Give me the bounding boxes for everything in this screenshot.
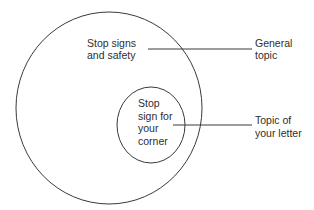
letter-topic-callout: Topic of your letter: [255, 114, 302, 140]
general-topic-callout-line-1: General: [255, 37, 292, 49]
letter-topic-callout-line-1: Topic of: [255, 114, 302, 127]
nested-topic-diagram: Stop signs and safety Stop sign for your…: [0, 0, 314, 210]
outer-circle-label-line-2: and safety: [87, 49, 136, 61]
inner-circle-label-line-3: your: [138, 122, 172, 135]
outer-circle-label: Stop signs and safety: [87, 37, 136, 61]
inner-circle-label-line-4: corner: [138, 135, 172, 148]
general-topic-callout: General topic: [255, 37, 292, 61]
general-topic-callout-line-2: topic: [255, 49, 292, 61]
inner-circle-label-line-1: Stop: [138, 97, 172, 110]
outer-circle-label-line-1: Stop signs: [87, 37, 136, 49]
inner-circle-label-line-2: sign for: [138, 110, 172, 123]
inner-circle-label: Stop sign for your corner: [138, 97, 172, 147]
letter-topic-callout-line-2: your letter: [255, 127, 302, 140]
